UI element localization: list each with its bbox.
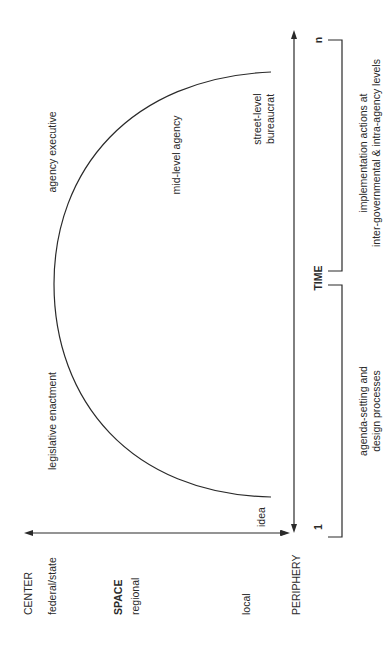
space-axis-title: SPACE: [112, 580, 124, 615]
idea-label: idea: [255, 507, 267, 527]
space-axis-right-arrowhead-icon: [281, 530, 290, 536]
legislative-enactment-label: legislative enactment: [46, 372, 58, 470]
implementation-phase-label-line2: inter-governmental & intra-agency levels: [370, 59, 382, 247]
agenda-phase-bracket: [328, 285, 342, 537]
space-axis-left-arrowhead-icon: [24, 530, 33, 536]
implementation-curve: [54, 72, 271, 497]
implementation-phase-bracket: [328, 40, 342, 271]
time-axis-start-tick: 1: [312, 524, 324, 530]
time-axis-top-arrowhead-icon: [291, 30, 297, 39]
periphery-label: PERIPHERY: [290, 555, 302, 616]
implementation-space-time-diagram: CENTER federal/state SPACE regional loca…: [0, 0, 389, 648]
street-level-label-line1: street-level: [251, 93, 263, 144]
street-level-label-line2: bureaucrat: [264, 94, 276, 144]
time-axis-end-tick: n: [312, 37, 324, 43]
implementation-phase-label-line1: implementation actions at: [357, 93, 369, 212]
center-label: CENTER: [22, 571, 34, 615]
agenda-phase-label-line1: agenda-setting and: [357, 366, 369, 456]
mid-level-agency-label: mid-level agency: [170, 115, 182, 195]
local-label: local: [240, 593, 252, 615]
time-axis-bottom-arrowhead-icon: [291, 524, 297, 533]
regional-label: regional: [129, 578, 141, 615]
agency-executive-label: agency executive: [46, 111, 58, 192]
agenda-phase-label-line2: design processes: [370, 370, 382, 452]
federal-state-label: federal/state: [46, 557, 58, 615]
time-axis-title: TIME: [312, 265, 324, 290]
